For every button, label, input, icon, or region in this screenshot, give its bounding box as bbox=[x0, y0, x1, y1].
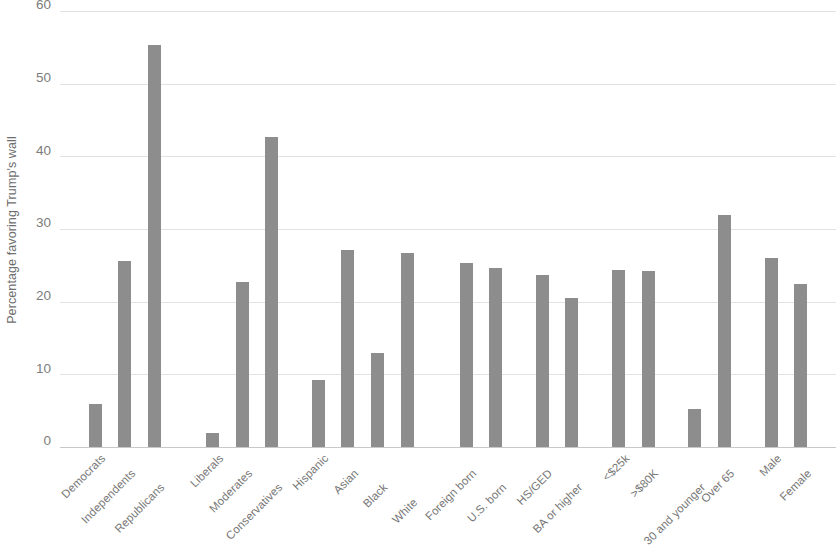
bar bbox=[265, 137, 278, 448]
x-tick-label: Male bbox=[757, 452, 783, 478]
bar bbox=[148, 45, 161, 448]
y-tick-label: 10 bbox=[36, 360, 51, 375]
bar bbox=[236, 282, 249, 448]
x-tick-label: Democrats bbox=[59, 452, 107, 500]
x-tick-label: Moderates bbox=[207, 467, 255, 515]
y-tick-label: 0 bbox=[43, 433, 51, 448]
x-axis-labels: DemocratsIndependentsRepublicansLiberals… bbox=[60, 452, 836, 544]
x-axis-line bbox=[60, 447, 836, 448]
x-tick-label: HS/GED bbox=[515, 467, 555, 507]
x-tick-label: Asian bbox=[331, 467, 360, 496]
x-tick-label: 30 and younger bbox=[641, 481, 707, 547]
bar bbox=[341, 250, 354, 448]
bar bbox=[118, 261, 131, 448]
bar bbox=[371, 353, 384, 448]
x-tick-label: <$25k bbox=[600, 452, 631, 483]
gridline bbox=[60, 156, 836, 157]
bar bbox=[765, 258, 778, 448]
bar bbox=[312, 380, 325, 448]
bar bbox=[688, 409, 701, 448]
y-tick-label: 20 bbox=[36, 288, 51, 303]
bar bbox=[565, 298, 578, 448]
x-tick-label: Female bbox=[777, 467, 813, 503]
bar bbox=[612, 270, 625, 448]
y-tick-label: 30 bbox=[36, 215, 51, 230]
plot-area: 0102030405060 bbox=[60, 12, 836, 448]
gridline bbox=[60, 11, 836, 12]
bar bbox=[794, 284, 807, 448]
x-tick-label: U.S. born bbox=[465, 481, 508, 524]
x-tick-label: Liberals bbox=[187, 452, 225, 490]
bar bbox=[718, 215, 731, 448]
bar bbox=[206, 433, 219, 448]
bar bbox=[536, 275, 549, 448]
x-tick-label: White bbox=[390, 496, 420, 526]
bar bbox=[401, 253, 414, 448]
bar bbox=[642, 271, 655, 448]
y-axis-title-text: Percentage favoring Trump's wall bbox=[5, 136, 19, 324]
y-tick-label: 40 bbox=[36, 142, 51, 157]
x-tick-label: Over 65 bbox=[699, 467, 737, 505]
x-tick-label: >$80K bbox=[628, 467, 661, 500]
x-tick-label: Black bbox=[361, 481, 390, 510]
y-tick-label: 60 bbox=[36, 0, 51, 12]
bar bbox=[460, 263, 473, 448]
bar bbox=[489, 268, 502, 448]
x-tick-label: Hispanic bbox=[291, 452, 331, 492]
y-tick-label: 50 bbox=[36, 70, 51, 85]
bar bbox=[89, 404, 102, 448]
gridline bbox=[60, 84, 836, 85]
y-axis-title: Percentage favoring Trump's wall bbox=[0, 0, 24, 460]
